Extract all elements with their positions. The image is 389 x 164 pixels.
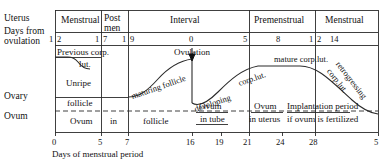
phase-header-menstrual-1: Menstrual: [61, 16, 100, 26]
axis-tick-24: 24: [276, 138, 285, 147]
annotation-implantation-top: Implantation period: [287, 102, 358, 111]
annotation-follicle-ovary: follicle: [67, 99, 93, 108]
phase-header-premenstrual: Premenstrual: [254, 16, 304, 26]
axis-tick-5b: 5: [374, 138, 378, 147]
ovulation-day-17-left: 1: [95, 35, 99, 44]
annotation-mature-corp-lut: mature corp.lut.: [274, 55, 328, 64]
axis-tick-21: 21: [243, 138, 252, 147]
ovulation-day-12-right: 2: [57, 35, 61, 44]
row-label-ovum: Ovum: [4, 112, 28, 122]
annotation-unripe: Unripe: [66, 79, 91, 88]
annotation-previous-corp-lut-line2: lut.: [79, 60, 91, 69]
annotation-follicle-ovum: follicle: [143, 117, 169, 126]
ovulation-day-12b-left: 1: [309, 35, 313, 44]
annotation-ovum-uterus-top: Ovum: [254, 102, 277, 111]
row-label-uterus: Uterus: [4, 14, 29, 24]
axis-tick-28: 28: [309, 138, 318, 147]
annotation-ovum-left: Ovum: [70, 117, 93, 126]
ovulation-day-19-left: 1: [122, 35, 126, 44]
x-axis-caption: Days of menstrual period: [52, 150, 143, 159]
axis-tick-0: 0: [52, 138, 56, 147]
annotation-previous-corp-lut-line1: Previous corp.: [57, 48, 109, 57]
axis-tick-7: 7: [125, 138, 129, 147]
ovulation-day-12-left: 1: [49, 35, 53, 44]
annotation-ovulation: Ovulation: [174, 48, 210, 57]
ovulation-day-8: 8: [276, 35, 280, 44]
row-label-days-from-ovulation-line2: ovulation: [4, 37, 40, 47]
annotation-in: in: [110, 117, 117, 126]
ovulation-day-12b-right: 2: [317, 35, 321, 44]
ovulation-day-17-right: 7: [103, 35, 107, 44]
annotation-in-uterus: in uterus: [249, 115, 280, 124]
annotation-ovum-tube-top: Ovum: [199, 102, 222, 111]
axis-tick-5: 5: [98, 138, 102, 147]
ovulation-day-19-right: 9: [130, 35, 134, 44]
phase-header-post-men: Post men: [104, 14, 120, 34]
annotation-in-tube: in tube: [200, 115, 225, 124]
row-label-ovary: Ovary: [4, 92, 28, 102]
phase-header-interval: Interval: [170, 16, 200, 26]
menstrual-cycle-diagram: Uterus Days from ovulation Ovary Ovum Me…: [0, 0, 389, 164]
bottom-axis-ticks: [55, 132, 378, 136]
annotation-implantation-bottom: if ovum is fertilized: [287, 115, 358, 124]
axis-tick-16: 16: [186, 138, 195, 147]
axis-tick-19: 19: [215, 138, 224, 147]
ovulation-day-0: 0: [189, 35, 193, 44]
ovulation-day-14: 14: [330, 35, 339, 44]
phase-header-menstrual-2: Menstrual: [325, 16, 364, 26]
phase-header-post-men-line2: men: [104, 24, 120, 34]
ovulation-day-5: 5: [243, 35, 247, 44]
